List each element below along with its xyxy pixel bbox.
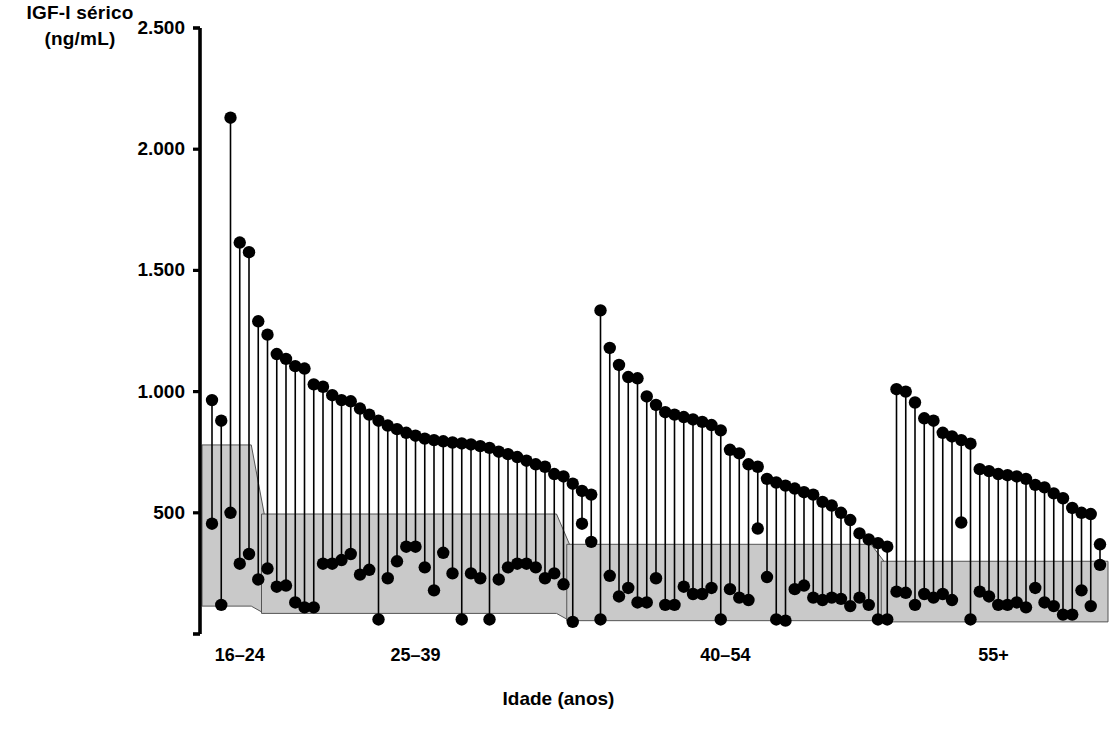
post-treatment-dot <box>798 579 810 591</box>
y-tick-label: 2.000 <box>60 138 185 160</box>
pre-treatment-dot <box>298 362 310 374</box>
x-group-label-1: 25–39 <box>390 645 440 666</box>
pre-treatment-dot <box>641 390 653 402</box>
post-treatment-dot <box>345 548 357 560</box>
post-treatment-dot <box>964 613 976 625</box>
post-treatment-dot <box>1075 584 1087 596</box>
post-treatment-dot <box>419 561 431 573</box>
post-treatment-dot <box>1066 608 1078 620</box>
post-treatment-dot <box>363 564 375 576</box>
post-treatment-dot <box>1094 559 1106 571</box>
post-treatment-dot <box>715 613 727 625</box>
x-group-label-3: 55+ <box>978 645 1009 666</box>
pre-treatment-dot <box>881 541 893 553</box>
pre-treatment-dot <box>900 385 912 397</box>
post-treatment-dot <box>668 599 680 611</box>
post-treatment-dot <box>576 518 588 530</box>
y-tick-label: 2.500 <box>60 17 185 39</box>
post-treatment-dot <box>483 613 495 625</box>
post-treatment-dot <box>742 594 754 606</box>
post-treatment-dot <box>881 613 893 625</box>
post-treatment-dot <box>946 594 958 606</box>
pre-treatment-dot <box>215 414 227 426</box>
post-treatment-dot <box>372 613 384 625</box>
chart-canvas <box>0 0 1117 733</box>
post-treatment-dot <box>761 571 773 583</box>
post-treatment-dot <box>548 567 560 579</box>
post-treatment-dot <box>604 570 616 582</box>
post-treatment-dot <box>594 613 606 625</box>
post-treatment-dot <box>474 572 486 584</box>
post-treatment-dot <box>844 600 856 612</box>
post-treatment-dot <box>557 578 569 590</box>
post-treatment-dot <box>613 590 625 602</box>
pre-treatment-dot <box>234 236 246 248</box>
post-treatment-dot <box>567 616 579 628</box>
post-treatment-dot <box>585 536 597 548</box>
post-treatment-dot <box>530 561 542 573</box>
y-axis <box>193 28 200 634</box>
post-treatment-dot <box>622 582 634 594</box>
post-treatment-dot <box>955 516 967 528</box>
post-treatment-dot <box>446 567 458 579</box>
post-treatment-dot <box>983 590 995 602</box>
pre-treatment-dot <box>715 424 727 436</box>
post-treatment-dot <box>909 599 921 611</box>
post-treatment-dot <box>863 599 875 611</box>
post-treatment-dot <box>705 582 717 594</box>
pre-treatment-dot <box>261 328 273 340</box>
x-group-label-2: 40–54 <box>700 645 750 666</box>
x-axis-title: Idade (anos) <box>0 688 1117 710</box>
post-treatment-dot <box>252 573 264 585</box>
post-treatment-dot <box>752 522 764 534</box>
pre-treatment-dot <box>252 315 264 327</box>
post-treatment-dot <box>224 507 236 519</box>
post-treatment-dot <box>1020 601 1032 613</box>
pre-treatment-dot <box>1094 538 1106 550</box>
post-treatment-dot <box>409 541 421 553</box>
reference-band-40-54 <box>567 544 884 622</box>
pre-treatment-dot <box>631 372 643 384</box>
post-treatment-dot <box>382 572 394 584</box>
post-treatment-dot <box>234 558 246 570</box>
post-treatment-dot <box>900 587 912 599</box>
pre-treatment-dot <box>844 514 856 526</box>
pre-treatment-dot <box>317 381 329 393</box>
y-tick-label: 1.500 <box>60 259 185 281</box>
post-treatment-dot <box>1085 600 1097 612</box>
pre-treatment-dot <box>909 396 921 408</box>
pre-treatment-dot <box>1085 508 1097 520</box>
post-treatment-dot <box>428 584 440 596</box>
reference-band-layer <box>202 445 1108 622</box>
pre-treatment-dot <box>613 359 625 371</box>
post-treatment-dot <box>724 583 736 595</box>
x-group-label-0: 16–24 <box>215 645 265 666</box>
post-treatment-dot <box>243 548 255 560</box>
pre-treatment-dot <box>752 461 764 473</box>
figure-root: IGF-I sérico (ng/mL) 2.5002.0001.5001.00… <box>0 0 1117 733</box>
pre-treatment-dot <box>594 304 606 316</box>
pre-treatment-dot <box>224 111 236 123</box>
post-treatment-dot <box>280 579 292 591</box>
post-treatment-dot <box>261 562 273 574</box>
post-treatment-dot <box>779 614 791 626</box>
post-treatment-dot <box>308 601 320 613</box>
pre-treatment-dot <box>1057 492 1069 504</box>
pre-treatment-dot <box>964 438 976 450</box>
pre-treatment-dot <box>927 414 939 426</box>
post-treatment-dot <box>215 599 227 611</box>
post-treatment-dot <box>1048 600 1060 612</box>
post-treatment-dot <box>641 596 653 608</box>
y-tick-label: 1.000 <box>60 381 185 403</box>
y-tick-label: 500 <box>60 502 185 524</box>
post-treatment-dot <box>493 573 505 585</box>
post-treatment-dot <box>206 518 218 530</box>
post-treatment-dot <box>391 555 403 567</box>
pre-treatment-dot <box>585 488 597 500</box>
pre-treatment-dot <box>206 394 218 406</box>
post-treatment-dot <box>456 613 468 625</box>
pre-treatment-dot <box>604 342 616 354</box>
post-treatment-dot <box>650 572 662 584</box>
post-treatment-dot <box>1029 582 1041 594</box>
pre-treatment-dot <box>733 447 745 459</box>
